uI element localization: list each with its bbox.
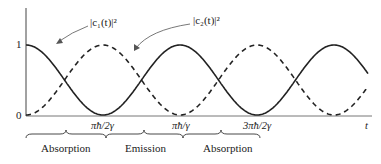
region-absorption-2: Absorption [203, 143, 253, 154]
x-tick-3: 3πħ/2γ [243, 121, 271, 132]
y-tick-1: 1 [16, 39, 22, 50]
x-axis-label: t [365, 121, 368, 132]
region-emission: Emission [125, 143, 166, 154]
y-tick-0: 0 [16, 110, 22, 121]
chart-canvas [0, 0, 381, 164]
x-tick-2: πħ/γ [172, 121, 190, 132]
c1-curve [26, 45, 368, 115]
region-absorption-1: Absorption [41, 143, 91, 154]
x-tick-1: πħ/2γ [91, 121, 114, 132]
c2-curve [26, 45, 368, 115]
c1-arrow [58, 26, 88, 42]
c1-label: |c₁(t)|² [90, 17, 117, 28]
c2-label: |c₂(t)|² [193, 15, 220, 26]
